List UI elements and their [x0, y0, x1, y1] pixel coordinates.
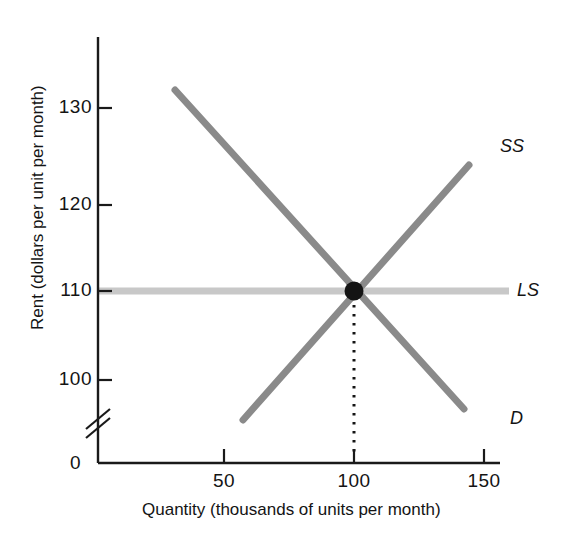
y-axis-title: Rent (dollars per unit per month): [28, 85, 48, 330]
y-axis-ticks: [98, 108, 112, 380]
y-tick-label-120: 120: [44, 193, 92, 215]
curve-label-ss: SS: [500, 136, 524, 157]
curve-label-ls: LS: [517, 280, 539, 301]
x-tick-label-150: 150: [454, 470, 514, 492]
x-axis-title: Quantity (thousands of units per month): [142, 500, 441, 520]
equilibrium-point-marker: [345, 282, 364, 301]
x-tick-label-50: 50: [194, 470, 254, 492]
y-tick-label-130: 130: [44, 96, 92, 118]
y-tick-label-110: 110: [44, 279, 92, 301]
origin-label: 0: [70, 452, 81, 474]
curve-label-d: D: [510, 408, 523, 429]
y-tick-label-100: 100: [44, 368, 92, 390]
demand-curve: [175, 90, 464, 409]
x-tick-label-100: 100: [324, 470, 384, 492]
supply-demand-chart: 130 120 110 100 0 50 100 150 Rent (dolla…: [0, 0, 566, 543]
x-axis-ticks: [224, 449, 484, 463]
chart-plot-area: [0, 0, 566, 543]
